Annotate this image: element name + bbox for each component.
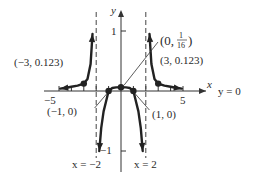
x-axis-label: x	[206, 78, 212, 90]
vertical-asymptote-label-right: x = 2	[134, 158, 157, 170]
x-axis-arrow-icon	[199, 88, 206, 94]
y-axis-arrow-icon	[118, 10, 124, 17]
data-point	[81, 80, 87, 86]
data-point	[130, 88, 136, 94]
y-axis-label: y	[110, 4, 116, 16]
annotation-leader-line	[124, 42, 158, 85]
vertical-asymptote-label-left: x = −2	[72, 158, 101, 170]
point-label-0-prefix: (0,	[160, 33, 174, 48]
point-label-0-suffix: )	[188, 33, 192, 48]
y-tick-label-neg1: −1	[100, 144, 112, 156]
point-label-0: (0, 1 16 )	[160, 31, 192, 50]
arrowhead-icon	[147, 34, 153, 42]
y-tick-label-1: 1	[111, 25, 117, 37]
data-point	[155, 80, 161, 86]
point-label-3: (3, 0.123)	[160, 54, 203, 67]
arrowhead-icon	[89, 34, 95, 42]
x-tick-label-5: 5	[180, 94, 186, 106]
point-label-neg1: (−1, 0)	[47, 105, 77, 118]
horizontal-asymptote-label: y = 0	[218, 85, 241, 97]
point-label-neg3: (−3, 0.123)	[14, 56, 64, 69]
point-label-0-numerator: 1	[179, 31, 183, 40]
data-point	[105, 88, 111, 94]
point-label-1: (1, 0)	[152, 108, 176, 121]
curve-left-branch	[60, 34, 92, 89]
point-label-0-denominator: 16	[177, 41, 185, 50]
data-point	[118, 84, 124, 90]
rational-function-graph: y x 1 −1 −5 5 y = 0 x = −2 x = 2 (−3, 0.…	[0, 0, 253, 179]
